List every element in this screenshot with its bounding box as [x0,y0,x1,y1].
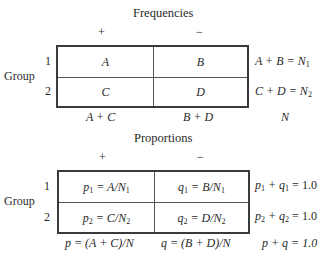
prop-cell-q1: q1 = B/N1 [155,180,248,195]
proportions-title: Proportions [134,131,192,146]
freq-group-label: Group [4,69,35,84]
freq-cell-B: B [154,55,247,70]
prop-col-header-plus: + [99,150,106,165]
prop-cell-p1: p1 = A/N1 [59,180,154,195]
freq-col-header-plus: + [98,25,105,40]
prop-row-label-2: 2 [44,210,50,225]
freq-row-total-1: A + B = N1 [255,54,310,69]
freq-col-header-minus: − [196,25,203,40]
freq-cell-A: A [58,55,153,70]
freq-col-total-1: A + C [86,110,115,125]
proportions-table: p1 = A/N1 q1 = B/N1 p2 = C/N2 q2 = D/N2 [57,170,250,234]
frequencies-title: Frequencies [133,6,193,21]
freq-row-total-2: C + D = N2 [255,84,312,99]
prop-col-total-2: q = (B + D)/N [161,236,231,251]
prop-cell-q2: q2 = D/N2 [155,211,248,226]
freq-grand-total: N [281,110,289,125]
prop-grand-total: p + q = 1.0 [262,236,317,251]
prop-row-total-1: p1 + q1 = 1.0 [255,178,317,193]
frequencies-table: A B C D [56,45,249,108]
freq-cell-C: C [58,85,153,100]
prop-cell-p2: p2 = C/N2 [59,211,154,226]
prop-row-total-2: p2 + q2 = 1.0 [255,209,317,224]
prop-col-total-1: p = (A + C)/N [65,236,134,251]
freq-row-label-2: 2 [45,84,51,99]
prop-group-label: Group [4,194,35,209]
freq-row-divider [58,77,247,78]
prop-row-label-1: 1 [44,179,50,194]
prop-col-header-minus: − [197,150,204,165]
freq-col-total-2: B + D [183,110,213,125]
prop-row-divider [59,202,248,203]
freq-row-label-1: 1 [45,54,51,69]
freq-cell-D: D [154,85,247,100]
